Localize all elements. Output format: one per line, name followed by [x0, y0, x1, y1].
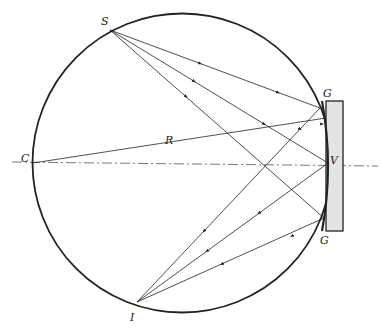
incident-ray-arrows	[186, 64, 278, 125]
label-source: S	[101, 15, 109, 28]
label-image: I	[129, 311, 135, 324]
label-grating-top: G	[323, 87, 332, 100]
rowland-circle	[33, 14, 332, 313]
label-center: C	[21, 152, 30, 165]
label-vertex: V	[330, 154, 339, 167]
diffracted-ray-arrows	[204, 124, 322, 264]
label-radius: R	[164, 134, 173, 147]
label-grating-bottom: G	[320, 234, 329, 247]
rowland-circle-diagram: S C R V G G I	[0, 0, 381, 332]
radius-line	[33, 118, 326, 163]
optical-axis	[12, 162, 378, 166]
incident-rays	[110, 30, 328, 218]
